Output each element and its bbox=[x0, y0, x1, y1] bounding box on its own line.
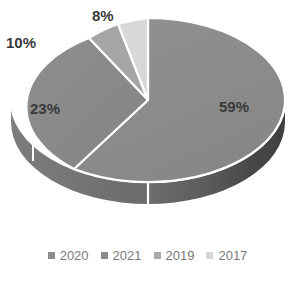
legend-item-2020[interactable]: 2020 bbox=[48, 249, 89, 262]
legend-label: 2020 bbox=[60, 249, 89, 262]
legend-item-2021[interactable]: 2021 bbox=[101, 249, 142, 262]
legend-swatch-icon bbox=[154, 252, 161, 259]
pie-chart-graphic bbox=[0, 0, 295, 240]
legend-item-2017[interactable]: 2017 bbox=[206, 249, 247, 262]
legend-swatch-icon bbox=[48, 252, 55, 259]
pie-chart: 59% 23% 10% 8% 2020 2021 2019 2017 bbox=[0, 0, 295, 289]
data-label-2020: 59% bbox=[219, 99, 249, 114]
data-label-2019: 10% bbox=[6, 35, 36, 50]
legend-item-2019[interactable]: 2019 bbox=[154, 249, 195, 262]
chart-legend: 2020 2021 2019 2017 bbox=[0, 249, 295, 262]
data-label-2017: 8% bbox=[92, 8, 114, 23]
legend-label: 2021 bbox=[113, 249, 142, 262]
legend-swatch-icon bbox=[101, 252, 108, 259]
legend-swatch-icon bbox=[206, 252, 213, 259]
legend-label: 2019 bbox=[166, 249, 195, 262]
data-label-2021: 23% bbox=[30, 101, 60, 116]
legend-label: 2017 bbox=[218, 249, 247, 262]
